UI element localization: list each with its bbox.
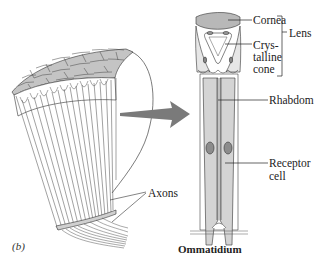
figure-caption: Ommatidium <box>178 243 242 255</box>
nucleus <box>206 142 214 154</box>
label-receptor-cell-2: cell <box>269 170 286 182</box>
panel-label: (b) <box>12 240 25 252</box>
label-crystalline-cone-1: Crys- <box>253 39 279 51</box>
nucleus <box>224 142 232 154</box>
label-axons: Axons <box>148 187 178 199</box>
label-crystalline-cone-3: cone <box>253 63 275 75</box>
label-lens: Lens <box>289 27 311 39</box>
label-receptor-cell-1: Receptor <box>269 157 311 169</box>
label-rhabdom: Rhabdom <box>269 94 314 106</box>
label-cornea: Cornea <box>253 14 286 26</box>
label-crystalline-cone-2: talline <box>253 51 282 63</box>
magnification-arrow <box>120 101 190 128</box>
cornea <box>196 12 240 29</box>
compound-eye-section <box>12 49 153 248</box>
